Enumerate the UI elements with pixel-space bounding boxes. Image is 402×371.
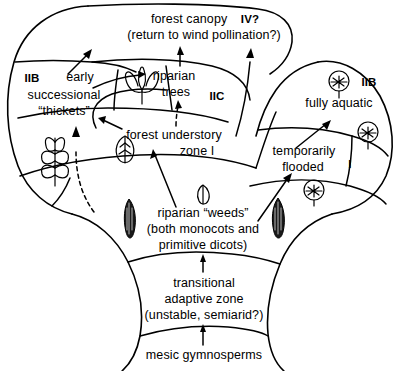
understory-label-line2: zone I bbox=[168, 144, 226, 159]
canopy-label-line2: (return to wind pollination?) bbox=[84, 28, 324, 43]
aquatic-roman: IIB bbox=[356, 76, 382, 89]
divider-trees-left bbox=[114, 70, 118, 110]
arrowhead-root-to-transitional bbox=[200, 324, 206, 332]
weeds-label-line1: riparian “weeds” bbox=[142, 206, 264, 221]
thickets-roman: IIB bbox=[18, 72, 46, 85]
aquatic-label: fully aquatic bbox=[294, 96, 384, 111]
thickets-label-line3: “thickets” bbox=[22, 104, 106, 119]
small-ovate-leaf-icon bbox=[198, 185, 210, 204]
arrowhead-understory-to-trees bbox=[175, 100, 182, 109]
transitional-label-line1: transitional bbox=[160, 276, 248, 291]
riparian-trees-roman: IIC bbox=[204, 90, 230, 103]
riparian-trees-label-line2: trees bbox=[152, 85, 200, 100]
adaptive-zone-diagram: forest canopy IV? (return to wind pollin… bbox=[0, 0, 402, 371]
flooded-label-line1: temporarily bbox=[262, 144, 346, 159]
arrowhead-transitional-to-weeds bbox=[200, 254, 206, 262]
canopy-text: forest canopy bbox=[151, 12, 227, 26]
compound-leaf-icon bbox=[42, 138, 69, 186]
arrow-flooded-to-canopy bbox=[236, 62, 250, 136]
riparian-trees-label-line1: riparian bbox=[142, 69, 206, 84]
aquatic-peltate-leaf-icon bbox=[329, 71, 349, 98]
thickets-label-line2: successional bbox=[18, 88, 110, 103]
transitional-label-line3: (unstable, semiarid?) bbox=[136, 308, 272, 323]
flooded-label-line2: flooded bbox=[272, 160, 334, 175]
weeds-label-line2: (both monocots and bbox=[132, 222, 274, 237]
arrowhead-flooded-to-canopy bbox=[246, 48, 254, 58]
thickets-label-line1: early bbox=[50, 70, 110, 85]
root-label: mesic gymnosperms bbox=[140, 348, 268, 363]
transitional-label-line2: adaptive zone bbox=[150, 292, 258, 307]
dark-narrow-leaf-icon bbox=[272, 198, 284, 238]
flooded-roman: I bbox=[344, 158, 356, 171]
canopy-roman: IV? bbox=[241, 13, 259, 25]
arrowhead-weeds-to-thickets bbox=[72, 126, 80, 137]
arrowhead-weeds-to-flooded bbox=[283, 173, 292, 183]
arrowhead-flooded-to-aquatic bbox=[322, 120, 331, 130]
arrow-weeds-to-understory bbox=[155, 155, 176, 207]
understory-label-line1: forest understory bbox=[112, 128, 236, 143]
weeds-label-line3: primitive dicots) bbox=[144, 238, 262, 253]
aquatic-peltate-leaf-icon-3 bbox=[304, 180, 324, 206]
arrowhead-trees-to-canopy bbox=[177, 46, 184, 55]
arrow-understory-to-trees bbox=[176, 106, 178, 126]
canopy-label-line1: forest canopy IV? bbox=[120, 12, 290, 27]
